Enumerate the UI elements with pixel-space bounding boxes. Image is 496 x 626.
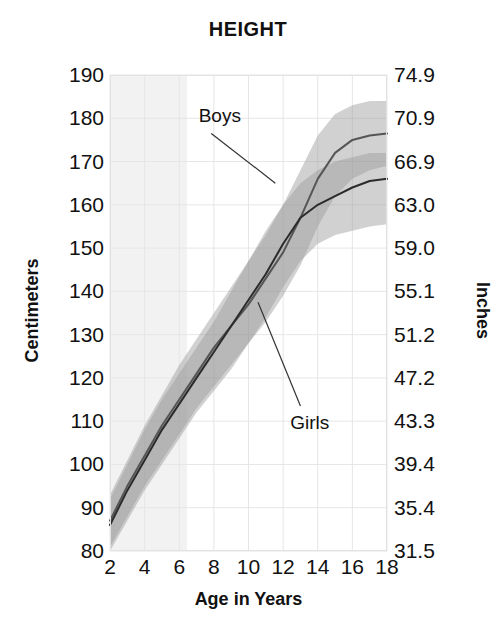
x-tick: 18: [367, 556, 407, 577]
series-label-girls: Girls: [290, 413, 329, 432]
y-tick-right: 51.2: [394, 324, 458, 345]
y-tick-left: 160: [44, 194, 104, 215]
y-tick-right: 47.2: [394, 367, 458, 388]
series-label-boys: Boys: [199, 106, 241, 125]
y-tick-right: 66.9: [394, 151, 458, 172]
y-axis-left-label: Centimeters: [22, 241, 43, 381]
y-axis-right: 74.970.966.963.059.055.151.247.243.339.4…: [394, 0, 464, 626]
y-tick-left: 170: [44, 151, 104, 172]
y-tick-left: 100: [44, 453, 104, 474]
y-tick-right: 39.4: [394, 453, 458, 474]
y-tick-right: 74.9: [394, 64, 458, 85]
annotation-leaders: [110, 75, 387, 551]
y-tick-right: 59.0: [394, 237, 458, 258]
y-tick-left: 120: [44, 367, 104, 388]
y-axis-right-label: Inches: [472, 241, 493, 381]
y-tick-left: 180: [44, 107, 104, 128]
y-tick-left: 150: [44, 237, 104, 258]
y-tick-right: 43.3: [394, 410, 458, 431]
growth-chart: HEIGHT Boys Girls 1901801701601501401301…: [0, 0, 496, 626]
y-tick-right: 55.1: [394, 280, 458, 301]
y-tick-right: 70.9: [394, 107, 458, 128]
y-tick-left: 140: [44, 280, 104, 301]
y-axis-left: 1901801701601501401301201101009080: [32, 0, 104, 626]
y-tick-left: 130: [44, 324, 104, 345]
y-tick-left: 190: [44, 64, 104, 85]
y-tick-left: 90: [44, 497, 104, 518]
y-tick-right: 35.4: [394, 497, 458, 518]
y-tick-right: 63.0: [394, 194, 458, 215]
y-tick-left: 110: [44, 410, 104, 431]
x-axis-label: Age in Years: [110, 589, 387, 610]
